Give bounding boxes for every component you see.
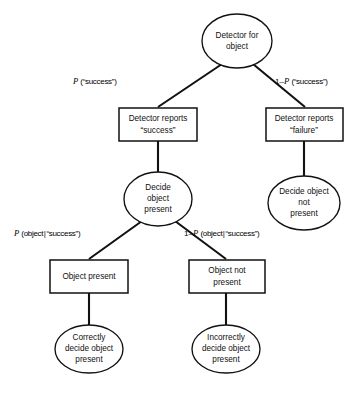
edge-label-p-success: P (“success”): [73, 76, 117, 86]
ellipse-shape: [202, 14, 272, 68]
edge-label-one-minus-p-object-given-success: 1–P (object|“success”): [184, 228, 259, 238]
box-shape: [119, 108, 197, 141]
probability-argument-rest: “success”): [46, 229, 80, 238]
node-label-line: Detector reports: [275, 114, 334, 123]
probability-argument-open: (object: [19, 229, 43, 238]
node-label-line: present: [290, 209, 318, 218]
probability-tree-diagram: Detector for object Detector reports “su…: [0, 0, 362, 394]
node-label-line: Detector reports: [129, 114, 188, 123]
one-minus-prefix: 1–: [275, 77, 284, 86]
node-label-line: “failure”: [290, 126, 318, 135]
node-label-line: Decide: [145, 183, 171, 192]
node-label-line: not: [298, 198, 310, 207]
one-minus-prefix: 1–: [184, 229, 193, 238]
probability-argument-rest: “success”): [226, 229, 260, 238]
edge-root-to-reports-success: [158, 64, 222, 107]
node-label-line: Detector for: [216, 31, 259, 40]
node-label-line: present: [144, 205, 172, 214]
edge-decide-present-to-object-not-present: [175, 221, 226, 259]
tree-canvas: Detector for object Detector reports “su…: [0, 0, 362, 394]
node-label-line: Incorrectly: [207, 333, 246, 342]
probability-argument-open: (object: [198, 229, 222, 238]
edge-label-p-object-given-success: P (object|“success”): [14, 228, 80, 238]
node-correctly-decide-object-present: Correctly decide object present: [55, 325, 123, 373]
node-label-line: present: [212, 355, 240, 364]
box-shape: [266, 108, 343, 141]
node-label-line: decide object: [65, 344, 114, 353]
node-label-line: present: [213, 278, 241, 287]
node-label-line: “success”: [140, 126, 175, 135]
node-detector-reports-failure: Detector reports “failure”: [266, 108, 343, 141]
edge-decide-present-to-object-present: [89, 221, 142, 259]
node-label-line: object: [226, 42, 249, 51]
edge-label-one-minus-p-success: 1–P (“success”): [275, 76, 328, 86]
node-detector-reports-success: Detector reports “success”: [119, 108, 197, 141]
node-label-line: object: [147, 194, 170, 203]
probability-argument: (“success”): [289, 77, 327, 86]
node-decide-object-not-present: Decide object not present: [268, 176, 340, 230]
node-decide-object-present: Decide object present: [124, 172, 192, 226]
box-shape: [189, 260, 265, 293]
node-label-line: Object not: [208, 266, 246, 275]
node-label-line: Decide object: [279, 187, 329, 196]
node-label-line: Object present: [62, 272, 116, 281]
node-label-line: Correctly: [73, 333, 107, 342]
node-object-not-present: Object not present: [189, 260, 265, 293]
probability-argument: (“success”): [78, 77, 116, 86]
node-incorrectly-decide-object-present: Incorrectly decide object present: [192, 325, 260, 373]
node-label-line: present: [75, 355, 103, 364]
node-label-line: decide object: [202, 344, 251, 353]
node-detector-for-object: Detector for object: [202, 14, 272, 68]
node-object-present: Object present: [50, 260, 128, 293]
